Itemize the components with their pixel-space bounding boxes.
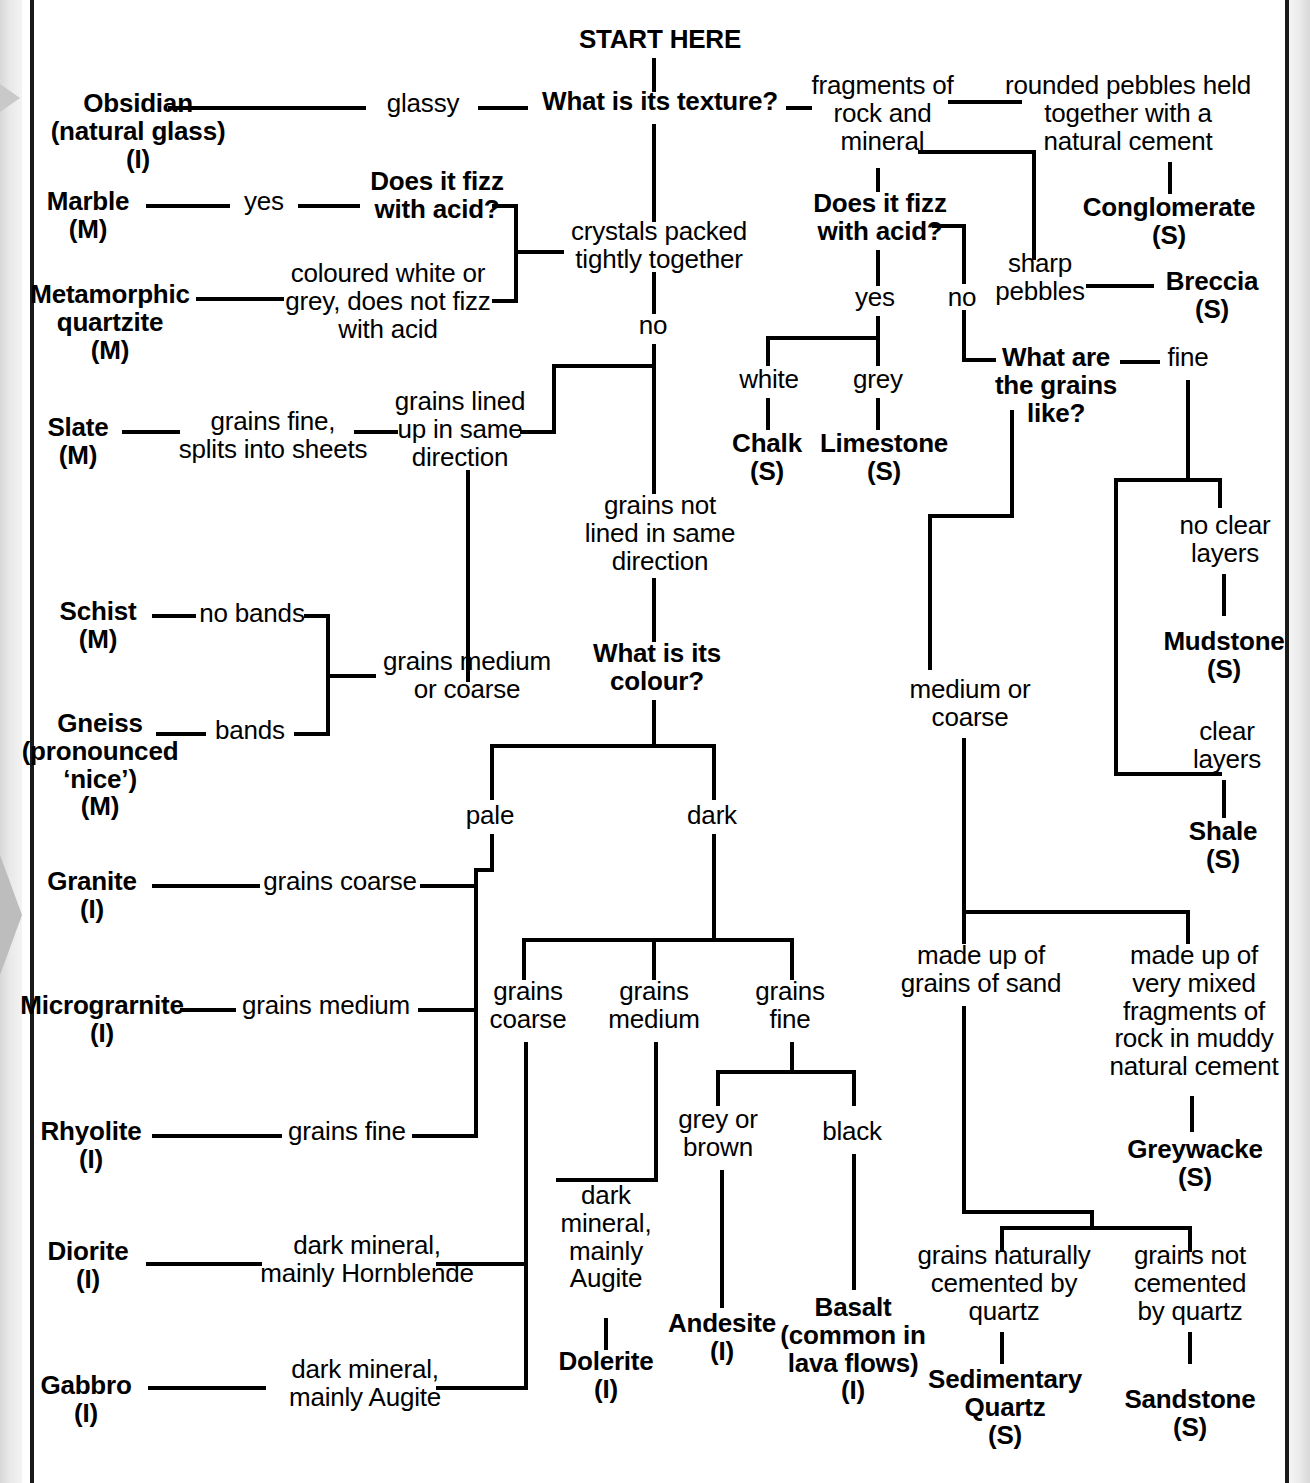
connector-rounded-to-conglomerate <box>1168 162 1172 194</box>
connector-slate-grainsfine <box>122 430 180 434</box>
connector-sand-jog <box>962 1210 1094 1214</box>
label-grains-coarse-dark: grains coarse <box>482 978 574 1034</box>
connector-lined-vertical <box>552 364 556 434</box>
rock-greywacke: Greywacke (S) <box>1104 1136 1286 1192</box>
label-yes-right: yes <box>838 284 912 312</box>
connector-sand-down <box>962 1006 966 1214</box>
connector-fine-down <box>1186 380 1190 480</box>
rock-identification-flowchart: START HERE What is its texture? glassy O… <box>0 0 1310 1483</box>
label-made-up-of-very-mixed: made up of very mixed fragments of rock … <box>1106 942 1282 1081</box>
connector-dark-drop <box>712 744 716 800</box>
label-no-right: no <box>930 284 994 312</box>
connector-sharp-down <box>1032 150 1036 260</box>
connector-mediumcoarse-down <box>962 738 966 914</box>
connector-medium-to-pale-spine <box>418 1008 476 1012</box>
connector-bands-stub <box>294 732 330 736</box>
border-rule-right <box>1285 0 1289 1483</box>
label-yes-left: yes <box>230 188 298 216</box>
connector-pale-down <box>490 834 494 872</box>
label-grains-fine-pale: grains fine <box>280 1118 414 1146</box>
connector-gneiss-bands <box>156 732 206 736</box>
rock-andesite: Andesite (I) <box>658 1310 786 1366</box>
label-grains-fine-dark: grains fine <box>742 978 838 1034</box>
label-grains-lined-up-same-direction: grains lined up in same direction <box>390 388 530 471</box>
label-crystals-packed-tightly: crystals packed tightly together <box>570 218 748 274</box>
connector-grainslike-jog <box>928 514 1014 518</box>
label-dark-mineral-augite-2: dark mineral, mainly Augite <box>556 1182 656 1293</box>
label-grains-coarse-pale: grains coarse <box>258 868 422 896</box>
label-bands: bands <box>204 717 296 745</box>
connector-coarse-to-pale-spine <box>420 884 476 888</box>
connector-dark-medium-spine <box>654 1042 658 1182</box>
connector-dark-fine-drop <box>790 938 794 980</box>
connector-dark-coarse-spine <box>524 1042 528 1390</box>
label-rounded-pebbles: rounded pebbles held together with a nat… <box>1000 72 1256 155</box>
label-grains-fine-splits-sheets: grains fine, splits into sheets <box>178 408 368 464</box>
label-grains-medium-dark: grains medium <box>604 978 704 1034</box>
connector-notlined-to-colour <box>652 578 656 642</box>
rock-obsidian: Obsidian (natural glass) (I) <box>20 90 256 173</box>
connector-pale-drop <box>490 744 494 800</box>
question-fizz-with-acid-left: Does it fizz with acid? <box>362 168 512 224</box>
connector-diorite-mineral <box>146 1262 262 1266</box>
connector-fizz-left-bottom <box>492 299 518 303</box>
page-tab-arrow-icon <box>0 84 20 112</box>
rock-gabbro: Gabbro (I) <box>22 1372 150 1428</box>
connector-mixed-to-greywacke <box>1190 1096 1194 1132</box>
rock-conglomerate: Conglomerate (S) <box>1068 194 1270 250</box>
connector-white-to-chalk <box>766 398 770 430</box>
connector-microgranite-medium <box>180 1008 236 1012</box>
connector-sand-mixed-split <box>962 910 1190 914</box>
connector-greybrown-to-andesite <box>720 1170 724 1308</box>
connector-gabbro-mineral <box>148 1386 266 1390</box>
connector-grainslike-down <box>1010 410 1014 518</box>
connector-texture-crystals <box>652 124 656 222</box>
connector-yes-split <box>766 336 880 340</box>
question-colour: What is its colour? <box>572 640 742 696</box>
rock-dolerite: Dolerite (I) <box>538 1348 674 1404</box>
label-dark-mineral-augite: dark mineral, mainly Augite <box>262 1356 468 1412</box>
connector-noclear-to-mudstone <box>1222 574 1226 616</box>
connector-marble-yes <box>146 204 230 208</box>
label-glassy: glassy <box>368 90 478 118</box>
question-grains-like: What are the grains like? <box>986 344 1126 427</box>
question-fizz-with-acid-right: Does it fizz with acid? <box>806 190 954 246</box>
rock-limestone: Limestone (S) <box>802 430 966 486</box>
rock-gneiss: Gneiss (pronounced ‘nice’) (M) <box>20 710 180 821</box>
rock-schist: Schist (M) <box>40 598 156 654</box>
label-grains-not-lined-same-direction: grains not lined in same direction <box>582 492 738 575</box>
label-grains-medium-or-coarse: grains medium or coarse <box>378 648 556 704</box>
connector-colour-down <box>652 700 656 748</box>
label-white: white <box>724 366 814 394</box>
label-no-clear-layers: no clear layers <box>1166 512 1284 568</box>
connector-black-to-basalt <box>852 1154 856 1290</box>
label-grey-or-brown: grey or brown <box>670 1106 766 1162</box>
label-grains-medium-pale: grains medium <box>234 992 418 1020</box>
start-here-label: START HERE <box>540 26 780 54</box>
connector-cemented-to-sedquartz <box>1000 1332 1004 1364</box>
connector-granite-coarse <box>152 884 260 888</box>
connector-clear-to-shale <box>1222 780 1226 818</box>
rock-diorite: Diorite (I) <box>26 1238 150 1294</box>
question-texture: What is its texture? <box>530 88 790 116</box>
connector-colour-split <box>490 744 716 748</box>
label-coloured-white-or-grey: coloured white or grey, does not fizz wi… <box>282 260 494 343</box>
rock-granite: Granite (I) <box>28 868 156 924</box>
connector-schist-nobands <box>152 614 196 618</box>
connector-white-drop <box>766 336 770 366</box>
connector-no-right-down <box>962 310 966 362</box>
connector-fizz-left-to-crystals <box>514 250 564 254</box>
page-tab-arrow-icon-2 <box>0 855 22 975</box>
rock-marble: Marble (M) <box>30 188 146 244</box>
label-grains-not-cemented-by-quartz: grains not cemented by quartz <box>1112 1242 1268 1325</box>
rock-mudstone: Mudstone (S) <box>1148 628 1300 684</box>
label-fragments-of-rock-and-mineral: fragments of rock and mineral <box>805 72 960 155</box>
label-black: black <box>806 1118 898 1146</box>
connector-fizz-right-no-stub <box>932 224 966 228</box>
connector-fizz-right-yes <box>876 250 880 286</box>
connector-dark-medium-drop <box>652 938 656 980</box>
rock-shale: Shale (S) <box>1158 818 1288 874</box>
connector-dark-coarse-drop <box>522 938 526 980</box>
label-clear-layers: clear layers <box>1172 718 1282 774</box>
connector-greybrown-drop <box>716 1070 720 1106</box>
